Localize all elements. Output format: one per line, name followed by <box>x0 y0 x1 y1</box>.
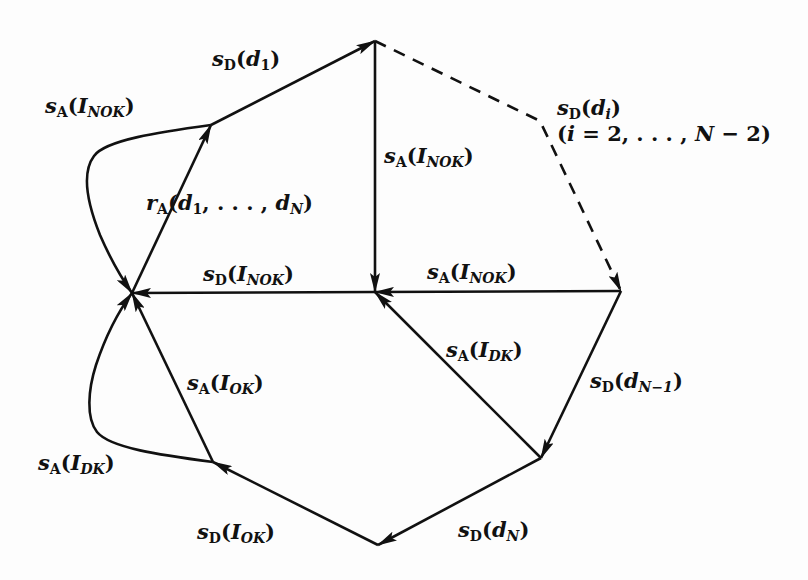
edge-center-to-left <box>132 292 375 293</box>
label-sa-inok-left: sA(INOK) <box>44 93 135 120</box>
edge-lowright-to-center <box>375 292 541 458</box>
label-sa-idk-left: sA(IDK) <box>37 450 115 477</box>
edge-right-to-center <box>375 291 621 292</box>
state-transition-diagram: sD(d1) sA(INOK) rA(d1, . . . , dN) sA(IN… <box>0 0 808 580</box>
label-sa-inok-vertical: sA(INOK) <box>383 143 474 170</box>
label-sd-dn1: sD(dN−1) <box>589 368 683 395</box>
label-sd-dn: sD(dN) <box>457 517 529 544</box>
label-sd-inok: sD(INOK) <box>202 261 294 288</box>
edge-ack-ok <box>132 293 213 462</box>
label-sa-idk-center: sA(IDK) <box>445 337 523 364</box>
label-index-range: (i = 2, . . . , N − 2) <box>557 121 771 146</box>
label-sd-d1: sD(d1) <box>211 46 280 73</box>
label-ra: rA(d1, . . . , dN) <box>146 190 313 217</box>
label-sd-iok: sD(IOK) <box>196 519 275 546</box>
diagram-canvas: sD(d1) sA(INOK) rA(d1, . . . , dN) sA(IN… <box>0 0 808 580</box>
label-sd-di: sD(di) <box>556 95 621 122</box>
label-sa-iok: sA(IOK) <box>186 370 264 397</box>
edge-send-dn1 <box>541 291 621 458</box>
label-sa-inok-horizontal: sA(INOK) <box>426 259 517 286</box>
